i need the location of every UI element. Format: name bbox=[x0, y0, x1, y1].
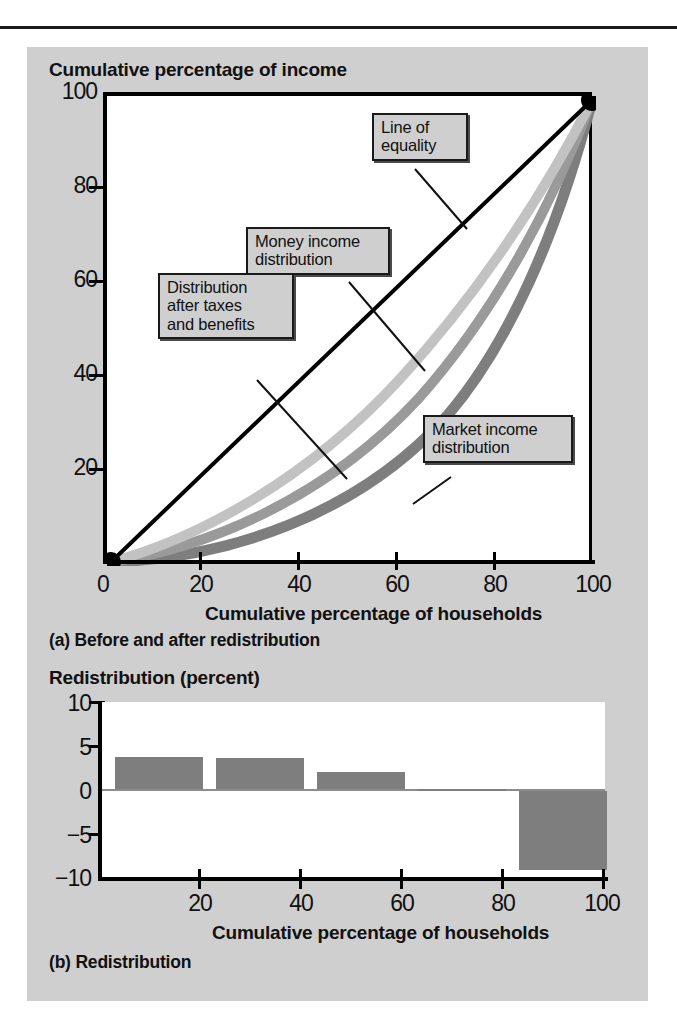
figure-root: Cumulative percentage of income 100 80 6… bbox=[0, 0, 677, 1033]
panel-b-xtickmark-40 bbox=[299, 869, 302, 889]
callout-market-income-distribution: Market income distribution bbox=[423, 415, 573, 463]
panel-a-xtick-100: 100 bbox=[561, 571, 625, 598]
bar-quintile-1 bbox=[115, 757, 203, 789]
panel-b-ytick-0: 0 bbox=[33, 778, 91, 805]
panel-a-xtick-0: 0 bbox=[73, 571, 133, 598]
panel-b-ytick-neg10: −10 bbox=[29, 865, 91, 892]
panel-b-xtick-100: 100 bbox=[570, 890, 634, 917]
callout-distribution-after-taxes: Distribution after taxes and benefits bbox=[158, 273, 294, 339]
panel-a-xtick-60: 60 bbox=[367, 571, 427, 598]
figure-gray-panel: Cumulative percentage of income 100 80 6… bbox=[27, 47, 648, 1001]
panel-a-xtickmark-60 bbox=[395, 552, 398, 570]
top-divider-rule bbox=[0, 26, 677, 29]
panel-b-xtickmark-100 bbox=[602, 869, 605, 889]
bar-quintile-3 bbox=[317, 772, 405, 789]
panel-b-xtick-20: 20 bbox=[170, 890, 230, 917]
panel-b-x-axis-title: Cumulative percentage of households bbox=[212, 922, 549, 944]
panel-a-xtick-40: 40 bbox=[269, 571, 329, 598]
panel-a-xtickmark-40 bbox=[297, 552, 300, 570]
panel-b-xtick-40: 40 bbox=[271, 890, 331, 917]
panel-b-xtick-80: 80 bbox=[473, 890, 533, 917]
bar-quintile-5 bbox=[519, 791, 607, 870]
panel-a-x-axis-title: Cumulative percentage of households bbox=[205, 603, 542, 625]
panel-b-xtickmark-20 bbox=[198, 869, 201, 889]
panel-b-ytick-5: 5 bbox=[33, 734, 91, 761]
callout-money-income-distribution: Money income distribution bbox=[246, 227, 390, 275]
panel-b-caption: (b) Redistribution bbox=[49, 952, 191, 973]
panel-b-xtickmark-60 bbox=[400, 869, 403, 889]
panel-b-y-axis-title: Redistribution (percent) bbox=[49, 667, 260, 689]
panel-a-xtick-80: 80 bbox=[465, 571, 525, 598]
panel-b-xtick-60: 60 bbox=[372, 890, 432, 917]
panel-a-xtickmark-20 bbox=[199, 552, 202, 570]
panel-a-x-axis-line bbox=[103, 560, 595, 564]
bar-quintile-2 bbox=[216, 758, 304, 789]
panel-b-x-axis-line bbox=[98, 877, 608, 881]
panel-b-plot-area bbox=[98, 702, 605, 877]
panel-a-xtick-20: 20 bbox=[171, 571, 231, 598]
bar-quintile-4 bbox=[418, 789, 506, 791]
panel-b-ytick-10: 10 bbox=[33, 690, 91, 717]
panel-a-caption: (a) Before and after redistribution bbox=[49, 630, 320, 651]
panel-a-ytick-100: 100 bbox=[39, 78, 97, 105]
panel-b-ytick-neg5: −5 bbox=[29, 822, 91, 849]
callout-line-of-equality: Line of equality bbox=[372, 113, 468, 161]
panel-a-xtickmark-80 bbox=[493, 552, 496, 570]
panel-b-xtickmark-80 bbox=[501, 869, 504, 889]
